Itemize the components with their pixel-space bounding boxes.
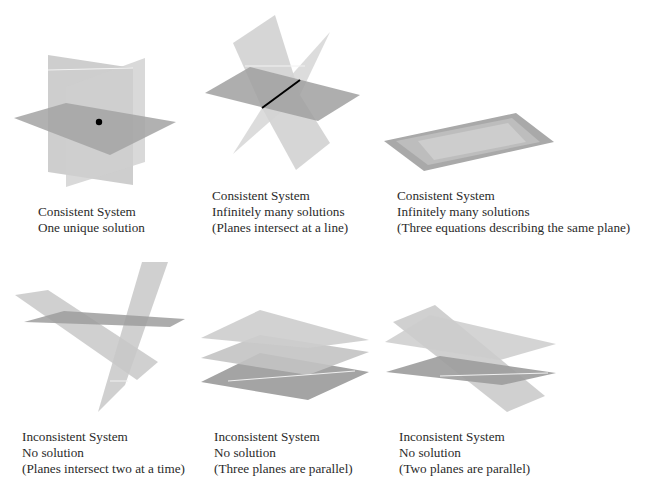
- horizontal-plane: [14, 103, 176, 155]
- caption-same-plane: Consistent System Infinitely many soluti…: [397, 188, 630, 236]
- slanted-plane: [393, 305, 545, 412]
- diagram-same-plane: [384, 113, 554, 171]
- caption-three-parallel: Inconsistent System No solution (Three p…: [214, 429, 353, 477]
- caption-line: Inconsistent System: [22, 429, 185, 445]
- caption-line: (Three equations describing the same pla…: [397, 220, 630, 236]
- diagram-planes-intersect-line: [205, 15, 360, 170]
- top-plane: [201, 310, 369, 348]
- caption-line: Inconsistent System: [399, 429, 530, 445]
- caption-planes-intersect-line: Consistent System Infinitely many soluti…: [212, 188, 348, 236]
- caption-line: (Three planes are parallel): [214, 461, 353, 477]
- caption-line: Inconsistent System: [214, 429, 353, 445]
- caption-line: (Two planes are parallel): [399, 461, 530, 477]
- caption-line: Infinitely many solutions: [397, 204, 630, 220]
- caption-line: (Planes intersect at a line): [212, 220, 348, 236]
- caption-intersect-two-at-a-time: Inconsistent System No solution (Planes …: [22, 429, 185, 477]
- caption-two-parallel: Inconsistent System No solution (Two pla…: [399, 429, 530, 477]
- diagram-two-parallel: [385, 305, 556, 412]
- caption-line: No solution: [399, 445, 530, 461]
- diagram-three-parallel: [201, 310, 369, 400]
- caption-line: Infinitely many solutions: [212, 204, 348, 220]
- caption-line: Consistent System: [397, 188, 630, 204]
- solution-point: [96, 119, 102, 125]
- caption-line: Consistent System: [212, 188, 348, 204]
- caption-line: (Planes intersect two at a time): [22, 461, 185, 477]
- caption-line: No solution: [22, 445, 185, 461]
- caption-line: No solution: [214, 445, 353, 461]
- caption-line: Consistent System: [38, 204, 145, 220]
- caption-line: One unique solution: [38, 220, 145, 236]
- diagram-one-unique-solution: [14, 55, 176, 187]
- plane-systems-figure: [0, 0, 652, 485]
- caption-one-unique-solution: Consistent System One unique solution: [38, 204, 145, 236]
- diagram-intersect-two-at-a-time: [15, 262, 185, 412]
